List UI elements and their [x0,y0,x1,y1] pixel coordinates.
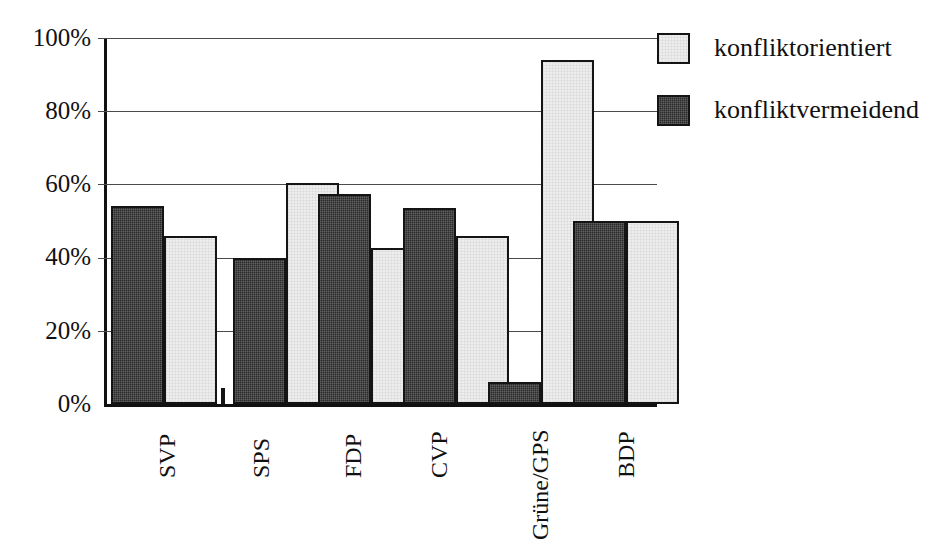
legend-item-konfliktvermeidend: konfliktvermeidend [657,95,927,157]
y-tick-mark-60 [98,184,107,185]
y-tick-label-60: 60% [0,171,91,196]
bar-svp-konfliktvermeidend [111,206,164,404]
bar-sps-konfliktvermeidend [233,258,286,404]
y-tick-label-100: 100% [0,25,91,50]
x-label-fdp: FDP [341,434,365,478]
y-tick-mark-20 [98,331,107,332]
bar-cvp-konfliktorientiert [456,236,509,404]
x-label-cvp: CVP [427,431,451,478]
y-tick-label-0: 0% [0,391,91,416]
gridline-100 [107,38,657,39]
x-label-bdp: BDP [614,431,638,478]
bar-cvp-konfliktvermeidend [403,208,456,404]
bar-gruene-konfliktvermeidend [488,382,541,404]
bar-bdp-konfliktorientiert [626,221,679,404]
plot-area [104,38,657,407]
legend-label-konfliktvermeidend: konfliktvermeidend [714,93,919,127]
x-label-svp: SVP [155,434,179,478]
legend-swatch-light-icon [657,33,690,64]
bar-chart: 100% 80% 60% 40% 20% 0% [0,0,931,544]
legend-item-konfliktorientiert: konfliktorientiert [657,33,927,95]
y-tick-mark-100 [98,38,107,39]
y-tick-mark-40 [98,258,107,259]
y-tick-label-80: 80% [0,98,91,123]
bar-fdp-konfliktvermeidend [318,194,371,404]
legend: konfliktorientiert konfliktvermeidend [657,33,927,157]
y-tick-label-40: 40% [0,244,91,269]
x-tick-svp [221,388,225,404]
legend-swatch-dark-icon [657,95,690,126]
legend-label-konfliktorientiert: konfliktorientiert [714,31,892,65]
y-tick-mark-80 [98,111,107,112]
x-label-gruene: Grüne/GPS [528,429,552,540]
x-label-sps: SPS [249,438,273,478]
bar-bdp-konfliktvermeidend [573,221,626,404]
bar-svp-konfliktorientiert [164,236,217,404]
y-tick-label-20: 20% [0,318,91,343]
